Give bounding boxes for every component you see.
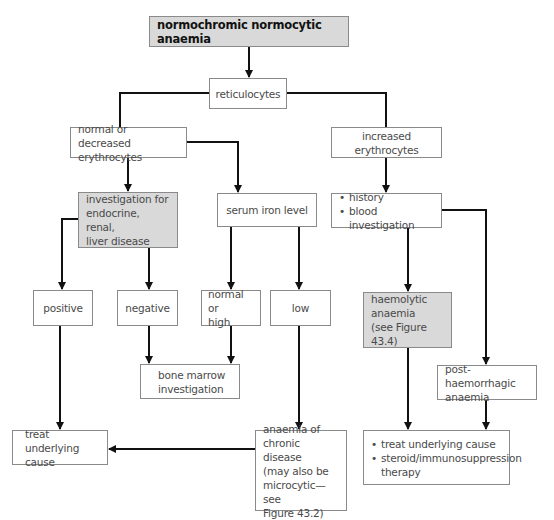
node-label: normochromic normocytic anaemia (157, 18, 341, 46)
node-label: investigation (158, 382, 232, 396)
node-increased-erythrocytes: increased erythrocytes (331, 127, 442, 158)
node-treatment-options: treat underlying cause steroid/immunosup… (363, 430, 510, 485)
node-label: positive (43, 301, 83, 315)
node-serum-iron-level: serum iron level (217, 193, 317, 227)
node-label: microcytic—see (263, 478, 339, 506)
list-item: steroid/immunosuppression therapy (371, 451, 502, 479)
node-label: investigation for (86, 192, 170, 206)
node-label: haemolytic (371, 292, 444, 306)
node-post-haemorrhagic-anaemia: post-haemorrhagic anaemia (437, 365, 537, 400)
node-label: Figure 43.2) (263, 506, 339, 520)
start-node-normochromic-normocytic-anaemia: normochromic normocytic anaemia (149, 16, 349, 47)
node-label: chronic disease (263, 436, 339, 464)
node-label: low (292, 301, 309, 315)
node-bone-marrow-investigation: bone marrow investigation (140, 364, 240, 399)
list-item: treat underlying cause (371, 437, 502, 451)
node-treat-underlying-cause: treat underlying cause (12, 430, 108, 465)
node-normal-decreased-erythrocytes: normal or decreased erythrocytes (70, 127, 187, 158)
node-label: increased erythrocytes (339, 129, 434, 157)
node-label: cause (25, 455, 100, 469)
node-normal-or-high: normal or high (201, 290, 261, 326)
list-item: blood investigation (339, 204, 434, 232)
node-label: (may also be (263, 464, 339, 478)
node-label: negative (125, 301, 169, 315)
node-label: post-haemorrhagic (445, 362, 529, 390)
node-label: reticulocytes (216, 87, 281, 101)
node-label: anaemia of (263, 422, 339, 436)
node-label: treat underlying (25, 427, 100, 455)
history-list: history blood investigation (339, 190, 434, 232)
node-label: anaemia (371, 306, 444, 320)
node-label: anaemia (445, 390, 529, 404)
node-investigation-endocrine-renal-liver: investigation for endocrine, renal, live… (78, 192, 178, 248)
node-haemolytic-anaemia: haemolytic anaemia (see Figure 43.4) (363, 292, 452, 348)
node-negative: negative (117, 290, 178, 326)
treatment-list: treat underlying cause steroid/immunosup… (371, 437, 502, 479)
node-label: normal or (78, 122, 179, 136)
node-label: high (208, 315, 254, 329)
node-label: bone marrow (158, 368, 232, 382)
node-label: decreased erythrocytes (78, 136, 179, 164)
node-label: (see Figure 43.4) (371, 320, 444, 348)
node-label: liver disease (86, 234, 170, 248)
node-history-blood-investigation: history blood investigation (331, 193, 442, 228)
node-reticulocytes: reticulocytes (209, 78, 287, 109)
node-anaemia-of-chronic-disease: anaemia of chronic disease (may also be … (255, 430, 347, 511)
node-positive: positive (33, 290, 93, 326)
node-label: normal or (208, 287, 254, 315)
list-item: history (339, 190, 434, 204)
node-label: serum iron level (226, 203, 308, 217)
node-label: endocrine, renal, (86, 206, 170, 234)
node-low: low (270, 290, 331, 326)
